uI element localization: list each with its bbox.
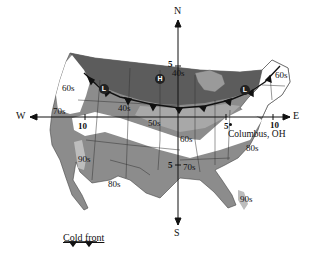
- temp-label-80s-texas: 80s: [108, 180, 121, 189]
- tick-south-5: 5: [168, 161, 173, 170]
- south-label: S: [174, 228, 180, 238]
- city-marker: [229, 123, 232, 126]
- temp-label-90s-southwest: 90s: [78, 155, 91, 164]
- temp-label-40s-center: 40s: [118, 104, 131, 113]
- east-label: E: [293, 111, 299, 121]
- west-label: W: [16, 111, 25, 121]
- north-label: N: [174, 6, 181, 16]
- temp-label-80s-southeast: 80s: [246, 144, 259, 153]
- high-pressure-marker: H: [155, 74, 165, 84]
- legend-cold-front-label: Cold front: [63, 232, 104, 243]
- low-pressure-marker-east: L: [240, 85, 250, 95]
- temp-label-50s-center: 50s: [148, 119, 161, 128]
- temp-label-40s-north: 40s: [172, 69, 185, 78]
- tick-west-10: 10: [78, 122, 87, 131]
- low-pressure-marker-west: L: [99, 84, 109, 94]
- temp-label-60s-northeast: 60s: [275, 71, 288, 80]
- city-label-columbus: Columbus, OH: [228, 130, 286, 140]
- temp-label-70s-west: 70s: [53, 107, 66, 116]
- temp-label-60s-midsouth: 60s: [180, 135, 193, 144]
- temp-label-90s-florida: 90s: [240, 195, 253, 204]
- temp-label-70s-south: 70s: [183, 163, 196, 172]
- temp-label-60s-northwest: 60s: [62, 84, 75, 93]
